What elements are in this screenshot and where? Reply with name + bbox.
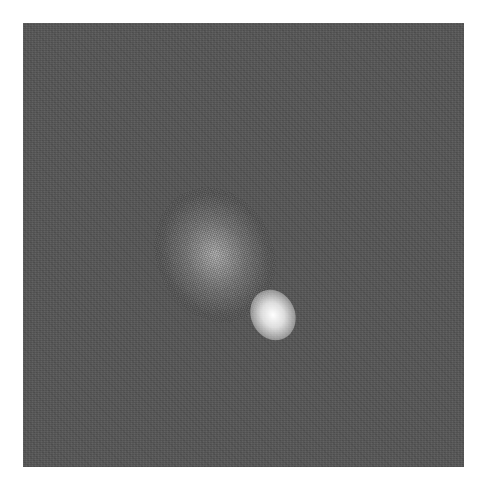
grayscale-image [23, 23, 464, 467]
